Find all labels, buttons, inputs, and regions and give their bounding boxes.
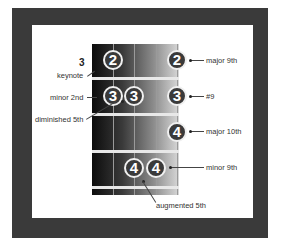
leader-line: [87, 97, 97, 98]
label-minor-2nd: minor 2nd: [50, 93, 83, 102]
label-diminished-5th: diminished 5th: [35, 115, 83, 124]
fret-bar: [92, 150, 179, 153]
label-major-9th: major 9th: [206, 56, 237, 65]
label-major-10th: major 10th: [206, 127, 241, 136]
fret-number: 3: [79, 57, 85, 68]
leader-line: [190, 96, 204, 97]
note-marker: 2: [103, 50, 123, 70]
fret-bar: [92, 77, 179, 80]
leader-line: [170, 167, 204, 168]
label-augmented-5th: augmented 5th: [156, 201, 206, 210]
note-marker: 3: [124, 86, 144, 106]
note-marker: 2: [167, 50, 187, 70]
leader-dot: [121, 100, 124, 103]
leader-line: [190, 131, 204, 132]
leader-dot: [189, 59, 192, 62]
label-sharp-9: #9: [206, 92, 214, 101]
label-keynote: keynote: [57, 71, 83, 80]
fret-bar: [92, 186, 179, 189]
leader-dot: [169, 166, 172, 169]
fret-bar: [92, 113, 179, 116]
leader-dot: [189, 95, 192, 98]
leader-dot: [189, 130, 192, 133]
note-marker: 4: [167, 122, 187, 142]
note-marker: 4: [124, 158, 144, 178]
label-minor-9th: minor 9th: [206, 163, 237, 172]
note-marker: 4: [146, 158, 166, 178]
note-marker: 3: [167, 86, 187, 106]
leader-line: [190, 60, 204, 61]
